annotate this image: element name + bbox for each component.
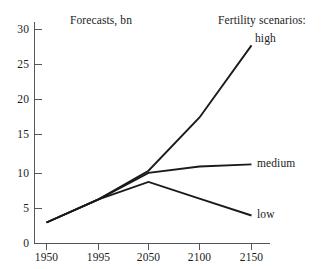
- series-label-low: low: [257, 208, 275, 220]
- chart-plot-area: [0, 0, 325, 269]
- y-tick-label-15: 15: [2, 128, 29, 140]
- series-line-high: [47, 45, 252, 222]
- chart-title: Forecasts, bn: [70, 14, 132, 26]
- y-tick-label-5: 5: [2, 202, 29, 214]
- x-tick-label-2050: 2050: [123, 251, 174, 263]
- x-tick-label-1950: 1950: [21, 251, 72, 263]
- x-tick-label-1995: 1995: [73, 251, 124, 263]
- series-line-low: [47, 182, 252, 223]
- y-tick-label-0: 0: [2, 237, 29, 249]
- y-tick-label-25: 25: [2, 58, 29, 70]
- x-tick-label-2100: 2100: [174, 251, 225, 263]
- series-line-medium: [47, 164, 252, 222]
- x-axis-ticks: [47, 244, 252, 251]
- x-tick-label-2150: 2150: [226, 251, 277, 263]
- y-tick-label-20: 20: [2, 93, 29, 105]
- y-axis-ticks: [35, 30, 43, 209]
- y-tick-label-30: 30: [2, 23, 29, 35]
- series-label-medium: medium: [257, 157, 295, 169]
- population-forecast-chart: 30 25 20 15 10 5 0 1950 1995 2050 2100 2…: [0, 0, 325, 269]
- legend-heading: Fertility scenarios:: [218, 14, 306, 26]
- series-label-high: high: [255, 32, 276, 44]
- y-tick-label-10: 10: [2, 167, 29, 179]
